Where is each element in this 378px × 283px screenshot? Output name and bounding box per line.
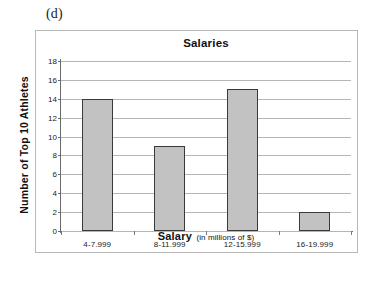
y-tick-label-4: 4 [52, 189, 57, 198]
y-tick-label-2: 2 [52, 208, 57, 217]
y-tick-mark-6 [58, 174, 61, 175]
x-axis-title-units: (in millions of $) [196, 233, 254, 242]
y-tick-label-16: 16 [48, 75, 57, 84]
y-tick-label-14: 14 [48, 94, 57, 103]
y-tick-label-12: 12 [48, 113, 57, 122]
y-tick-mark-2 [58, 212, 61, 213]
y-axis-line [60, 59, 61, 233]
y-tick-label-10: 10 [48, 132, 57, 141]
x-axis-title: Salary (in millions of $) [61, 226, 351, 244]
x-axis-title-main: Salary [158, 230, 192, 242]
chart-frame: Salaries 024681012141618 4-7.9998-11.999… [35, 30, 358, 253]
x-tick-mark-4 [351, 231, 352, 235]
y-tick-label-0: 0 [52, 227, 57, 236]
bar-4-7.999 [82, 99, 113, 231]
bar-12-15.999 [227, 89, 258, 231]
y-tick-mark-4 [58, 193, 61, 194]
plot-area: 024681012141618 4-7.9998-11.99912-15.999… [61, 61, 351, 231]
figure-panel-label: (d) [46, 6, 63, 22]
y-tick-mark-16 [58, 80, 61, 81]
y-tick-mark-10 [58, 137, 61, 138]
y-tick-mark-8 [58, 155, 61, 156]
y-tick-label-6: 6 [52, 170, 57, 179]
y-axis-title-text: Number of Top 10 Athletes [18, 76, 30, 213]
y-tick-mark-14 [58, 99, 61, 100]
y-tick-mark-18 [58, 61, 61, 62]
gridline-16 [61, 80, 351, 81]
bar-8-11.999 [154, 146, 185, 231]
y-axis-title: Number of Top 10 Athletes [16, 58, 32, 232]
chart-title: Salaries [61, 37, 351, 49]
gridline-18 [61, 61, 351, 62]
y-tick-label-18: 18 [48, 57, 57, 66]
y-tick-label-8: 8 [52, 151, 57, 160]
y-tick-mark-12 [58, 118, 61, 119]
